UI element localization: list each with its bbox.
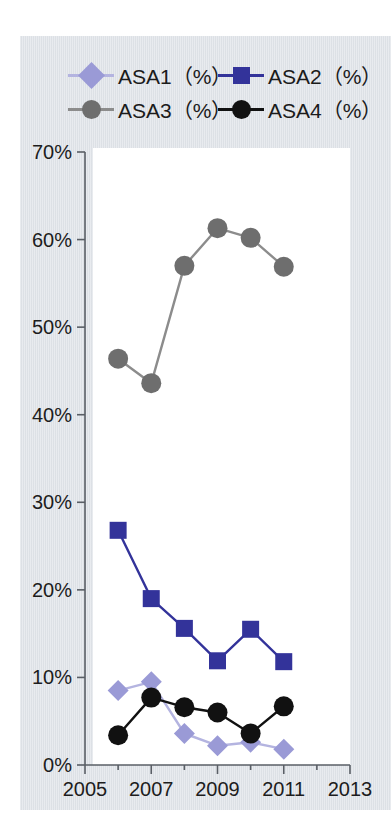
data-point-circle bbox=[141, 373, 161, 393]
legend-marker-asa4 bbox=[218, 98, 264, 120]
data-point-circle bbox=[208, 702, 228, 722]
legend-row-2: ASA3（%） ASA4（%） bbox=[68, 92, 368, 126]
x-tick-label: 2007 bbox=[129, 778, 174, 800]
y-tick-label: 60% bbox=[32, 229, 72, 251]
legend-item-asa1: ASA1（%） bbox=[68, 60, 218, 90]
y-tick-label: 50% bbox=[32, 316, 72, 338]
y-tick-label: 30% bbox=[32, 491, 72, 513]
y-tick-label: 10% bbox=[32, 666, 72, 688]
data-point-square bbox=[209, 652, 226, 669]
x-tick-label: 2013 bbox=[328, 778, 373, 800]
y-tick-label: 70% bbox=[32, 141, 72, 163]
legend-label-asa3: ASA3（%） bbox=[118, 94, 232, 124]
data-point-circle bbox=[241, 228, 261, 248]
data-point-circle bbox=[141, 688, 161, 708]
y-tick-label: 20% bbox=[32, 579, 72, 601]
legend-marker-asa2 bbox=[218, 64, 264, 86]
legend-item-asa3: ASA3（%） bbox=[68, 94, 218, 124]
y-tick-label: 40% bbox=[32, 404, 72, 426]
plot-area bbox=[93, 148, 350, 765]
data-point-square bbox=[242, 621, 259, 638]
data-point-square bbox=[275, 653, 292, 670]
legend-marker-asa3 bbox=[68, 98, 114, 120]
data-point-circle bbox=[108, 725, 128, 745]
x-tick-label: 2011 bbox=[262, 778, 305, 800]
data-point-circle bbox=[108, 349, 128, 369]
legend-marker-asa1 bbox=[68, 64, 114, 86]
data-point-circle bbox=[241, 723, 261, 743]
data-point-circle bbox=[274, 257, 294, 277]
data-point-circle bbox=[174, 697, 194, 717]
x-tick-label: 2005 bbox=[63, 778, 108, 800]
data-point-circle bbox=[208, 218, 228, 238]
x-tick-label: 2009 bbox=[195, 778, 240, 800]
legend-label-asa2: ASA2（%） bbox=[268, 60, 382, 90]
legend-item-asa2: ASA2（%） bbox=[218, 60, 382, 90]
data-point-square bbox=[176, 620, 193, 637]
legend-item-asa4: ASA4（%） bbox=[218, 94, 382, 124]
legend-row-1: ASA1（%） ASA2（%） bbox=[68, 58, 368, 92]
data-point-circle bbox=[174, 256, 194, 276]
data-point-square bbox=[110, 522, 127, 539]
legend-label-asa4: ASA4（%） bbox=[268, 94, 382, 124]
data-point-circle bbox=[274, 696, 294, 716]
legend-label-asa1: ASA1（%） bbox=[118, 60, 232, 90]
data-point-square bbox=[143, 590, 160, 607]
chart-page: ASA1（%） ASA2（%） ASA3（%） bbox=[0, 0, 391, 826]
chart-legend: ASA1（%） ASA2（%） ASA3（%） bbox=[68, 58, 368, 126]
y-tick-label: 0% bbox=[43, 754, 72, 776]
